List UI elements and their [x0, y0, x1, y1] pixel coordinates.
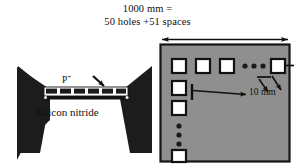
- pitch-label: 10 mm: [249, 88, 276, 98]
- ellipsis-dot: [260, 63, 265, 68]
- doping-label: P+: [62, 74, 71, 86]
- ellipsis-dot: [176, 132, 181, 137]
- doping-superscript: +: [67, 73, 71, 81]
- ellipsis-dot: [242, 63, 247, 68]
- figure-root: 1000 mm = 50 holes +51 spaces: [0, 0, 295, 166]
- ellipsis-dot: [251, 63, 256, 68]
- beam-anchor-right: [120, 66, 152, 153]
- perforation-pointer-arrow: [93, 76, 104, 86]
- ellipsis-dot: [176, 123, 181, 128]
- figure-artwork: [0, 0, 295, 166]
- beam-body: [44, 87, 129, 100]
- ellipsis-dot: [176, 141, 181, 146]
- material-label: Silicon nitride: [36, 107, 99, 118]
